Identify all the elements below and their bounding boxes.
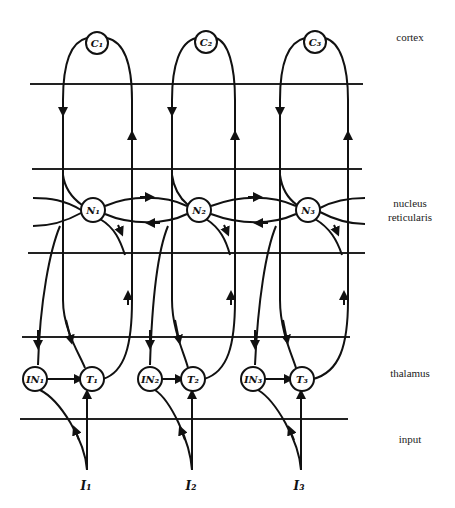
- node-IN1: IN₁: [23, 367, 47, 391]
- region-label-nucleus: nucleus: [378, 196, 442, 210]
- cortico-reticular-path-1: [63, 38, 87, 205]
- thalamo-cortical-path-1: [103, 38, 132, 379]
- svg-text:IN₁: IN₁: [25, 374, 44, 385]
- node-IN3: IN₃: [241, 367, 265, 391]
- region-label-thalamus: thalamus: [378, 366, 442, 380]
- svg-text:T₁: T₁: [86, 374, 98, 385]
- node-IN2: IN₂: [138, 367, 162, 391]
- node-C2: C₂: [195, 31, 217, 53]
- svg-text:T₂: T₂: [187, 374, 199, 385]
- svg-text:C₂: C₂: [200, 37, 213, 48]
- region-label-reticularis: reticularis: [378, 210, 442, 224]
- node-N2: N₂: [187, 198, 211, 222]
- node-C1: C₁: [86, 32, 108, 54]
- node-C3: C₃: [304, 31, 326, 53]
- svg-text:IN₂: IN₂: [140, 374, 160, 385]
- node-T2: T₂: [181, 367, 205, 391]
- svg-text:C₃: C₃: [309, 37, 322, 48]
- input-label-I1: I₁: [80, 479, 92, 493]
- input-label-I2: I₂: [185, 479, 197, 493]
- svg-text:T₃: T₃: [296, 374, 308, 385]
- svg-text:N₁: N₁: [85, 205, 100, 216]
- svg-text:N₃: N₃: [300, 205, 315, 216]
- node-T1: T₁: [80, 367, 104, 391]
- input-label-I3: I₃: [293, 479, 305, 493]
- node-N1: N₁: [81, 198, 105, 222]
- region-label-nucleus-reticularis: nucleus reticularis: [378, 196, 442, 224]
- region-label-input: input: [378, 432, 442, 446]
- svg-text:IN₃: IN₃: [243, 374, 263, 385]
- svg-text:C₁: C₁: [91, 38, 103, 49]
- node-T3: T₃: [290, 367, 314, 391]
- svg-text:N₂: N₂: [191, 205, 206, 216]
- node-N3: N₃: [296, 198, 320, 222]
- reticular-to-in-path-1: [38, 226, 60, 365]
- region-label-cortex: cortex: [380, 30, 440, 44]
